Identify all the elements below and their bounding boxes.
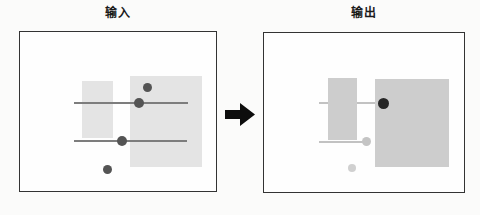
output-dot-light-on-line (362, 137, 371, 146)
figure-stage: 输入 输出 (0, 0, 480, 215)
output-dot-light-lower (348, 164, 356, 172)
input-dot-lower (103, 165, 112, 174)
input-large-gray-region (130, 76, 202, 167)
input-dot-on-top-line (134, 98, 144, 108)
output-dot-dark (378, 98, 389, 109)
input-dot-upper (143, 83, 152, 92)
output-small-gray-region (328, 78, 357, 140)
input-top-line (74, 102, 188, 104)
input-small-gray-region (82, 81, 113, 138)
input-dot-on-bottom-line (117, 136, 127, 146)
output-large-gray-region (375, 79, 449, 167)
shapes-layer (0, 0, 480, 215)
input-bottom-line (74, 140, 187, 142)
